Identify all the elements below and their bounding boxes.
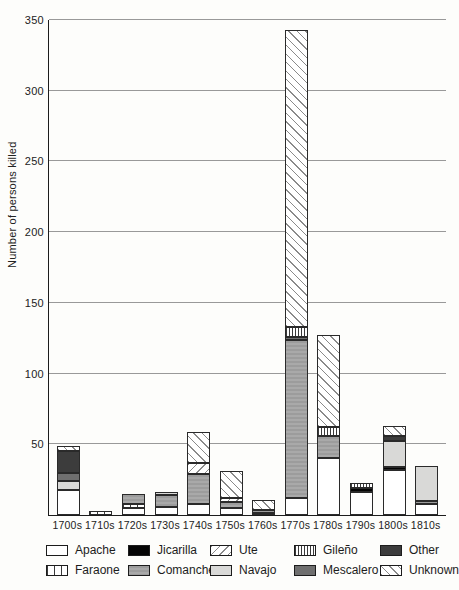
- segment-1730s-apache: [155, 507, 178, 516]
- segment-1780s-unknown: [317, 335, 340, 427]
- segment-1700s-mescalero: [57, 473, 80, 482]
- segment-1740s-apache: [187, 504, 210, 515]
- bar-slot-1790s: [345, 483, 378, 515]
- bar-slot-1750s: [215, 471, 248, 515]
- bar-slot-1780s: [313, 335, 346, 515]
- bar-1750s: [220, 471, 243, 515]
- segment-1810s-navajo: [415, 466, 438, 501]
- bar-1810s: [415, 466, 438, 515]
- segment-1750s-unknown: [220, 471, 243, 498]
- y-axis-tick-labels: 50100150200250300350: [0, 0, 44, 590]
- legend-item-mescalero: Mescalero: [294, 564, 380, 576]
- segment-1800s-apache: [383, 470, 406, 515]
- bar-1790s: [350, 483, 373, 515]
- bar-1780s: [317, 335, 340, 515]
- segment-1720s-apache: [122, 508, 145, 515]
- y-tick-label-200: 200: [0, 226, 44, 238]
- bars-container: [49, 20, 446, 515]
- legend: ApacheJicarillaUteGileñoOtherFaraoneComa…: [46, 544, 450, 576]
- bar-slot-1800s: [378, 426, 411, 515]
- bar-1800s: [383, 426, 406, 515]
- x-label-1780s: 1780s: [312, 519, 345, 531]
- bar-slot-1720s: [117, 494, 150, 515]
- legend-label-unknown: Unknown: [409, 563, 459, 577]
- x-axis-labels: 1700s1710s1720s1730s1740s1750s1760s1770s…: [48, 519, 445, 531]
- legend-item-apache: Apache: [46, 544, 128, 556]
- legend-label-comanche: Comanche: [157, 563, 215, 577]
- bar-slot-1730s: [150, 492, 183, 515]
- legend-item-unknown: Unknown: [380, 564, 459, 576]
- legend-label-other: Other: [409, 543, 439, 557]
- segment-1750s-apache: [220, 508, 243, 515]
- legend-swatch-mescalero: [294, 565, 316, 576]
- bar-slot-1760s: [247, 500, 280, 515]
- legend-swatch-gileno: [294, 545, 316, 556]
- segment-1740s-ute: [187, 463, 210, 474]
- segment-1740s-unknown: [187, 432, 210, 463]
- segment-1760s-unknown: [252, 500, 275, 510]
- segment-1800s-unknown: [383, 426, 406, 436]
- plot-area: [48, 20, 446, 516]
- legend-item-other: Other: [380, 544, 459, 556]
- bar-slot-1810s: [410, 466, 443, 515]
- legend-item-navajo: Navajo: [210, 564, 294, 576]
- segment-1730s-comanche: [155, 495, 178, 506]
- bar-1720s: [122, 494, 145, 515]
- y-tick-label-250: 250: [0, 155, 44, 167]
- segment-1800s-navajo: [383, 441, 406, 467]
- x-label-1720s: 1720s: [116, 519, 149, 531]
- bar-1730s: [155, 492, 178, 515]
- segment-1700s-apache: [57, 490, 80, 516]
- y-tick-label-300: 300: [0, 85, 44, 97]
- segment-1770s-unknown: [285, 30, 308, 327]
- legend-item-comanche: Comanche: [128, 564, 210, 576]
- x-label-1790s: 1790s: [344, 519, 377, 531]
- x-label-1800s: 1800s: [377, 519, 410, 531]
- x-label-1810s: 1810s: [409, 519, 442, 531]
- bar-1710s: [89, 511, 112, 515]
- segment-1770s-apache: [285, 498, 308, 515]
- bar-slot-1770s: [280, 30, 313, 515]
- legend-swatch-apache: [46, 545, 68, 556]
- bar-1700s: [57, 446, 80, 515]
- legend-item-gileno: Gileño: [294, 544, 380, 556]
- legend-swatch-faraone: [46, 565, 68, 576]
- legend-swatch-navajo: [210, 565, 232, 576]
- bar-1760s: [252, 500, 275, 515]
- y-tick-label-150: 150: [0, 297, 44, 309]
- segment-1780s-apache: [317, 458, 340, 515]
- x-label-1740s: 1740s: [181, 519, 214, 531]
- segment-1770s-gileno: [285, 327, 308, 337]
- y-tick-label-50: 50: [0, 438, 44, 450]
- legend-swatch-other: [380, 545, 402, 556]
- legend-item-ute: Ute: [210, 544, 294, 556]
- legend-label-apache: Apache: [75, 543, 116, 557]
- segment-1790s-apache: [350, 492, 373, 515]
- x-label-1700s: 1700s: [51, 519, 84, 531]
- segment-1700s-navajo: [57, 481, 80, 490]
- legend-label-ute: Ute: [239, 543, 258, 557]
- y-tick-label-350: 350: [0, 14, 44, 26]
- segment-1760s-apache: [252, 513, 275, 515]
- legend-swatch-ute: [210, 545, 232, 556]
- segment-1770s-comanche: [285, 340, 308, 498]
- legend-label-mescalero: Mescalero: [323, 563, 378, 577]
- bar-slot-1740s: [182, 432, 215, 515]
- segment-1720s-comanche: [122, 494, 145, 504]
- legend-label-jicarilla: Jicarilla: [157, 543, 197, 557]
- segment-1780s-gileno: [317, 427, 340, 436]
- bar-slot-1700s: [52, 446, 85, 515]
- segment-1700s-other: [57, 451, 80, 472]
- segment-1710s-faraone: [89, 511, 112, 515]
- bar-1770s: [285, 30, 308, 515]
- legend-swatch-unknown: [380, 565, 402, 576]
- legend-label-gileno: Gileño: [323, 543, 358, 557]
- x-label-1760s: 1760s: [246, 519, 279, 531]
- x-label-1770s: 1770s: [279, 519, 312, 531]
- legend-swatch-comanche: [128, 565, 150, 576]
- bar-slot-1710s: [85, 511, 118, 515]
- x-label-1710s: 1710s: [84, 519, 117, 531]
- legend-item-jicarilla: Jicarilla: [128, 544, 210, 556]
- legend-item-faraone: Faraone: [46, 564, 128, 576]
- bar-1740s: [187, 432, 210, 515]
